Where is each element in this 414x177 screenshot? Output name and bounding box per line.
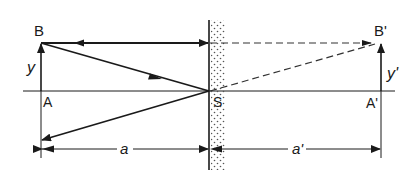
label-B: B [34,22,44,39]
horizontal-ray-return-arrowhead [74,40,84,47]
label-B-prime: B' [374,22,387,39]
label-A: A [43,94,53,110]
incident-ray [41,43,209,91]
label-y: y [26,59,36,76]
mirror-diagram: B y A S B' y' A' a a' [0,0,414,177]
dimension-a-left-arrowhead [42,146,54,153]
label-S: S [213,94,222,110]
label-y-prime: y' [386,65,399,82]
virtual-reflected-ray [210,44,375,91]
label-a-prime: a' [292,140,304,157]
label-a: a [120,140,128,157]
label-A-prime: A' [366,95,378,111]
reflected-ray [42,91,209,140]
